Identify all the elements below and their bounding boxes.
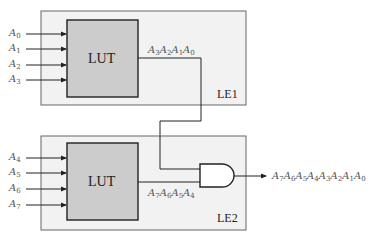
le2-output-label: A7A6A5A4 [148, 188, 195, 200]
le2-input-label-1: A5 [9, 167, 21, 179]
le2-input-label-0: A4 [9, 152, 21, 164]
le2-name-label: LE2 [217, 212, 238, 224]
final-output-label: A7A6A5A4A3A2A1A0 [272, 171, 366, 183]
le1-input-label-3: A3 [9, 74, 21, 86]
le1-input-label-2: A2 [9, 59, 21, 71]
le2-input-label-3: A7 [9, 199, 21, 211]
diagram-svg [0, 0, 372, 243]
le1-lut-label: LUT [88, 52, 115, 66]
le1-input-label-1: A1 [9, 43, 21, 55]
diagram-canvas: A0 A1 A2 A3 LUT A3A2A1A0 LE1 A4 A5 A6 A7… [0, 0, 372, 243]
and-gate-icon [200, 164, 234, 187]
le2-lut-label: LUT [88, 175, 115, 189]
le2-input-label-2: A6 [9, 183, 21, 195]
le1-input-label-0: A0 [9, 28, 21, 40]
le1-name-label: LE1 [217, 88, 238, 100]
le1-output-label: A3A2A1A0 [148, 45, 195, 57]
